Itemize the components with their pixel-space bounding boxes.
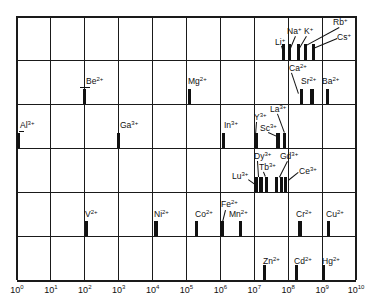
- bar-fe: [220, 221, 223, 236]
- leader-line: [222, 210, 226, 222]
- ion-label-cs: Cs+: [337, 33, 351, 42]
- gridline-horizontal: [17, 60, 356, 61]
- ion-label-cr: Cr2+: [296, 210, 312, 219]
- x-tick-label: 100: [10, 285, 23, 295]
- bar-la: [283, 133, 286, 148]
- bar-dy: [259, 177, 262, 192]
- leader-line: [290, 36, 296, 48]
- x-tick-label: 105: [180, 285, 193, 295]
- ion-label-gd: Gd3+: [280, 152, 298, 161]
- bar-sr: [310, 89, 313, 104]
- bar-hg: [322, 265, 325, 280]
- ion-label-rb: Rb+: [333, 18, 347, 27]
- x-tick-label: 1010: [348, 285, 365, 295]
- ion-label-cd: Cd2+: [294, 257, 312, 266]
- ion-label-na: Na+: [287, 27, 301, 36]
- gridline-horizontal: [17, 16, 356, 18]
- error-bar-cap: [19, 131, 24, 132]
- bar-ce: [284, 177, 287, 192]
- ion-label-ce: Ce3+: [299, 167, 317, 176]
- x-tick-label: 102: [78, 285, 91, 295]
- bar-al: [17, 133, 20, 148]
- bar-ca: [300, 89, 303, 104]
- ion-rate-chart: Li+Na+K+Rb+Cs+Be2+Mg2+Ca2+Sr2+Ba2+Al3+Ga…: [0, 0, 373, 307]
- ion-label-zn: Zn2+: [263, 257, 280, 266]
- ion-label-fe: Fe2+: [221, 200, 238, 209]
- leader-line: [277, 114, 285, 133]
- ion-label-y: Y3+: [254, 113, 267, 122]
- ion-label-ba: Ba2+: [322, 77, 339, 86]
- bar-ga: [117, 133, 120, 148]
- bar-cr: [298, 221, 301, 236]
- ion-label-la: La3+: [270, 105, 286, 114]
- ion-label-hg: Hg2+: [322, 257, 340, 266]
- bar-y: [254, 133, 257, 148]
- ion-label-ni: Ni2+: [154, 210, 169, 219]
- bar-co: [195, 221, 198, 236]
- leader-line: [288, 172, 299, 181]
- ion-label-lu: Lu3+: [232, 172, 248, 181]
- ion-label-mg: Mg2+: [188, 77, 207, 86]
- x-tick-label: 106: [214, 285, 227, 295]
- bar-cd: [295, 265, 298, 280]
- ion-label-tb: Tb3+: [259, 163, 276, 172]
- bar-tb: [265, 177, 268, 192]
- bar-ba: [326, 89, 329, 104]
- bar-gd2: [280, 177, 283, 192]
- ion-label-be: Be2+: [86, 77, 103, 86]
- bar-gd: [275, 177, 278, 192]
- gridline-horizontal: [17, 148, 356, 149]
- x-tick-label: 104: [146, 285, 159, 295]
- x-tick-label: 108: [282, 285, 295, 295]
- x-tick-label: 101: [44, 285, 57, 295]
- ion-label-sr: Sr2+: [301, 77, 316, 86]
- bar-rb: [304, 44, 307, 60]
- bar-mn: [239, 221, 242, 236]
- bar-ni: [154, 221, 157, 236]
- x-tick-label: 103: [112, 285, 125, 295]
- ion-label-al: Al3+: [20, 121, 34, 130]
- x-tick-label: 107: [248, 285, 261, 295]
- error-bar-cap: [80, 87, 90, 88]
- gridline-horizontal: [17, 236, 356, 237]
- ion-label-v: V2+: [85, 210, 98, 219]
- bar-in: [222, 133, 225, 148]
- bar-be: [83, 89, 86, 104]
- ion-label-ga: Ga3+: [120, 121, 138, 130]
- bar-cu: [327, 221, 330, 236]
- gridline-horizontal: [17, 192, 356, 193]
- ion-label-in: In3+: [224, 121, 238, 130]
- gridline-horizontal: [17, 280, 356, 282]
- leader-line: [291, 73, 299, 94]
- bar-mg: [188, 89, 191, 104]
- ion-label-co: Co2+: [195, 210, 213, 219]
- gridline-horizontal: [17, 104, 356, 105]
- bar-v: [85, 221, 88, 236]
- ion-label-cu: Cu2+: [326, 210, 344, 219]
- bar-zn: [263, 265, 266, 280]
- x-tick-label: 109: [315, 285, 328, 295]
- ion-label-mn: Mn2+: [229, 210, 248, 219]
- leader-line: [279, 161, 288, 177]
- leader-line: [263, 172, 266, 177]
- ion-label-dy: Dy3+: [254, 152, 271, 161]
